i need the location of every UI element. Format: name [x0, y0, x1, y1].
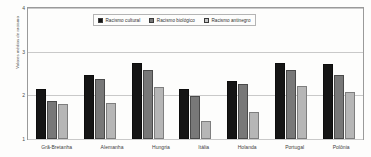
bar-groups [28, 8, 363, 139]
bar [84, 75, 94, 139]
bar [95, 79, 105, 139]
bar [334, 75, 344, 139]
x-axis-tick-label: Portugal [285, 141, 304, 150]
x-axis-tick-label: Grã-Bretanha [41, 141, 72, 150]
bar [275, 63, 285, 139]
y-axis-tick-label: 4 [22, 6, 25, 11]
x-axis-labels: Grã-BretanhaAlemanhaHungriaItáliaHolanda… [27, 141, 364, 155]
bar [249, 112, 259, 139]
bar [201, 121, 211, 139]
bar [227, 81, 237, 139]
legend-swatch-icon [149, 18, 154, 23]
bar [36, 89, 46, 139]
y-axis-tick-label: 3 [22, 49, 25, 54]
chart-legend: Racismo culturalRacismo biológicoRacismo… [93, 14, 256, 26]
legend-swatch-icon [98, 18, 103, 23]
bar-group [323, 8, 355, 139]
bar [106, 103, 116, 139]
x-axis-tick-label: Polônia [333, 141, 350, 150]
bar-group [36, 8, 68, 139]
bar-group [227, 8, 259, 139]
bar [47, 101, 57, 139]
legend-item: Racismo biológico [149, 18, 195, 23]
bar [323, 64, 333, 139]
bar [58, 104, 68, 139]
legend-item: Racismo cultural [98, 18, 140, 23]
legend-item: Racismo antinegro [204, 18, 251, 23]
bar [190, 96, 200, 139]
bar-group [179, 8, 211, 139]
x-axis-tick-label: Holanda [238, 141, 257, 150]
bar [345, 92, 355, 139]
bar-group [275, 8, 307, 139]
bar [154, 87, 164, 139]
y-axis-tick-label: 2 [22, 93, 25, 98]
bar [286, 70, 296, 139]
x-axis-tick-label: Alemanha [101, 141, 124, 150]
legend-label: Racismo cultural [106, 18, 141, 23]
bar [132, 63, 142, 139]
legend-label: Racismo antinegro [211, 18, 250, 23]
bar [179, 89, 189, 139]
bar [297, 86, 307, 139]
legend-swatch-icon [204, 18, 209, 23]
bar-chart: Valores médios de racismo 1234 Grã-Breta… [0, 0, 371, 157]
bar-group [84, 8, 116, 139]
legend-label: Racismo biológico [157, 18, 195, 23]
x-axis-tick-label: Itália [198, 141, 209, 150]
bar-group [132, 8, 164, 139]
y-axis-title: Valores médios de racismo [15, 0, 20, 98]
plot-area: 1234 [27, 7, 364, 140]
bar [238, 84, 248, 139]
bar [143, 70, 153, 139]
y-axis-tick-label: 1 [22, 137, 25, 142]
x-axis-tick-label: Hungria [152, 141, 170, 150]
gridline [28, 139, 363, 140]
